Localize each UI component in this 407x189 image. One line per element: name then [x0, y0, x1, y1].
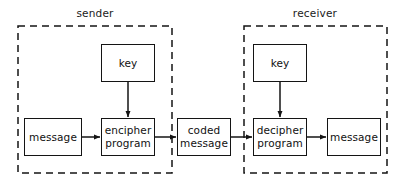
node-message-plain-input-label: message [29, 131, 77, 144]
node-coded-message-label: coded message [180, 124, 228, 150]
node-coded-message[interactable]: coded message [177, 118, 231, 156]
encryption-flow-diagram: sender receiver key message encipher pro… [0, 0, 407, 189]
node-encipher-program[interactable]: encipher program [101, 118, 155, 156]
zone-label-sender: sender [55, 7, 135, 20]
node-sender-key[interactable]: key [101, 44, 155, 82]
node-decipher-program-label: decipher program [257, 124, 304, 150]
node-message-plain-output-label: message [330, 131, 378, 144]
node-message-plain-output[interactable]: message [327, 118, 381, 156]
node-sender-key-label: key [119, 57, 138, 70]
node-receiver-key[interactable]: key [253, 44, 307, 82]
node-decipher-program[interactable]: decipher program [253, 118, 307, 156]
node-message-plain-input[interactable]: message [24, 118, 82, 156]
node-receiver-key-label: key [271, 57, 290, 70]
diagram-vector-layer [0, 0, 407, 189]
zone-label-receiver: receiver [275, 7, 355, 20]
node-encipher-program-label: encipher program [105, 124, 152, 150]
